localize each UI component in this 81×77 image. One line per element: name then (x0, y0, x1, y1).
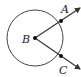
ray-ba (35, 8, 80, 38)
label-a: A (60, 3, 69, 16)
ray-bc (35, 38, 80, 69)
circle-angle-diagram: A B C (0, 0, 81, 77)
point-b (33, 36, 37, 40)
point-a (59, 19, 63, 23)
point-c (59, 54, 63, 58)
label-c: C (59, 64, 68, 77)
label-b: B (21, 33, 30, 46)
